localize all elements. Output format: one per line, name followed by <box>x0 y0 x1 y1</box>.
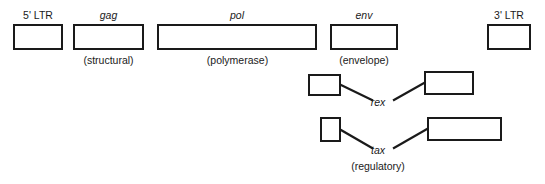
gene-label-three-prime-ltr: 3' LTR <box>484 9 534 21</box>
gene-sublabel-pol: (polymerase) <box>180 54 295 66</box>
gene-label-rex: rex <box>358 96 398 108</box>
gene-box-five-prime-ltr[interactable] <box>13 24 63 50</box>
gene-box-env[interactable] <box>330 24 398 50</box>
gene-box-rex-exon-2[interactable] <box>424 71 474 95</box>
gene-box-three-prime-ltr[interactable] <box>487 24 531 50</box>
gene-box-rex-exon-1[interactable] <box>308 74 341 96</box>
gene-label-gag: gag <box>73 9 144 21</box>
gene-box-tax-exon-1[interactable] <box>320 117 341 142</box>
gene-label-env: env <box>330 9 398 21</box>
gene-box-gag[interactable] <box>73 24 144 50</box>
gene-sublabel-tax: (regulatory) <box>330 160 426 172</box>
gene-label-pol: pol <box>157 9 317 21</box>
gene-sublabel-env: (envelope) <box>318 54 410 66</box>
splice-line-tax-2 <box>394 129 427 148</box>
gene-box-tax-exon-2[interactable] <box>427 117 502 141</box>
gene-sublabel-gag: (structural) <box>58 54 159 66</box>
gene-label-five-prime-ltr: 5' LTR <box>13 9 63 21</box>
splice-line-rex-2 <box>394 83 424 100</box>
gene-label-tax: tax <box>358 144 398 156</box>
gene-box-pol[interactable] <box>157 24 317 50</box>
genome-diagram: 5' LTRgag(structural)pol(polymerase)env(… <box>0 0 545 184</box>
